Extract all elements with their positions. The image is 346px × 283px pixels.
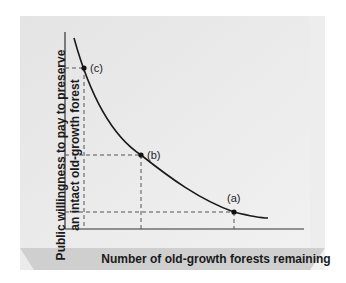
- x-axis-label: Number of old-growth forests remaining: [86, 252, 346, 266]
- point-a: [231, 209, 236, 214]
- label-b: (b): [147, 149, 160, 161]
- point-c: [81, 65, 86, 70]
- label-c: (c): [90, 62, 103, 74]
- chart-panel: (c) (b) (a) Public willingness to pay to…: [20, 16, 325, 270]
- point-b: [138, 152, 143, 157]
- y-axis-label-line2: an intact old-growth forest: [68, 25, 82, 283]
- label-a: (a): [227, 192, 240, 204]
- y-axis-label-line1: Public willingness to pay to preserve: [54, 25, 68, 283]
- y-axis-label: Public willingness to pay to preserve an…: [54, 25, 82, 283]
